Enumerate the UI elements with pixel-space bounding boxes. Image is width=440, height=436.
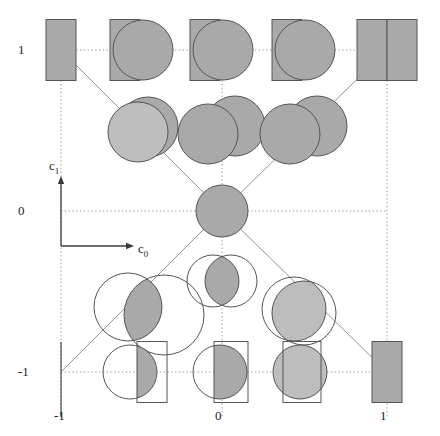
x-axis-label-sub: 0 bbox=[144, 249, 149, 259]
node-0-0 bbox=[196, 185, 248, 237]
node-m05-p05-circle-a bbox=[108, 102, 168, 162]
node-m05-m1 bbox=[103, 342, 167, 403]
figure-canvas: -101 10-1 c0 c1 bbox=[0, 0, 440, 436]
x-axis-label: c0 bbox=[138, 242, 148, 259]
node-p05-m1 bbox=[273, 342, 327, 403]
node-m05-p1 bbox=[110, 20, 173, 81]
y-tick-label-0: 1 bbox=[18, 43, 25, 56]
node-m05-p05 bbox=[108, 97, 178, 162]
node-m05-p1-circle bbox=[113, 20, 173, 80]
node-0-p1-circle bbox=[193, 20, 253, 80]
node-p05-p05-circle-a bbox=[260, 104, 320, 164]
node-p05-p1 bbox=[272, 20, 335, 81]
y-axis-label-sub: 1 bbox=[55, 166, 60, 176]
node-0-p1 bbox=[190, 20, 253, 81]
x-tick-label-1: 0 bbox=[215, 409, 222, 422]
node-p05-p05 bbox=[260, 96, 347, 164]
node-0-p05-circle-a bbox=[178, 104, 238, 164]
y-tick-label-2: -1 bbox=[18, 365, 29, 378]
node-0-m05 bbox=[187, 255, 257, 307]
y-axis-arrow-head bbox=[58, 176, 64, 184]
node-p1-m1 bbox=[372, 342, 402, 403]
node-p1-p1-rect-left bbox=[357, 20, 387, 81]
node-p1-p1-rect-right bbox=[387, 20, 417, 81]
node-p05-m05 bbox=[262, 277, 336, 345]
node-m1-p1 bbox=[46, 20, 76, 81]
x-axis-arrow-head bbox=[126, 243, 134, 249]
node-0-p05 bbox=[178, 96, 265, 164]
node-p1-m1-rect bbox=[372, 342, 402, 403]
node-0-m1 bbox=[193, 342, 248, 403]
x-tick-label-2: 1 bbox=[380, 409, 387, 422]
node-0-0-circle bbox=[196, 185, 248, 237]
y-tick-label-1: 0 bbox=[18, 204, 25, 217]
node-m1-p1-rect bbox=[46, 20, 76, 81]
node-p05-m1-circle bbox=[273, 345, 327, 399]
x-tick-label-0: -1 bbox=[54, 409, 65, 422]
diagram-svg bbox=[0, 0, 440, 436]
node-p1-p1 bbox=[357, 20, 417, 81]
node-p05-p1-circle bbox=[275, 20, 335, 80]
y-axis-label: c1 bbox=[49, 159, 59, 176]
